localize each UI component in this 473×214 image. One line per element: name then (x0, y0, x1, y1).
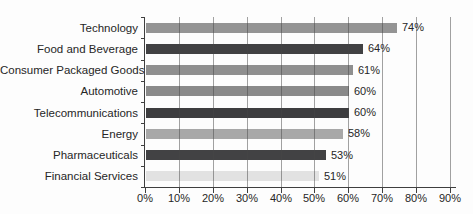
bar-value-label: 60% (354, 106, 376, 119)
gridline (247, 17, 248, 187)
category-label: Pharmaceuticals (0, 148, 138, 162)
bar (146, 65, 353, 75)
x-axis (141, 187, 456, 188)
bar-chart: 0%10%20%30%40%50%60%70%80%90%Technology7… (0, 0, 473, 214)
category-label: Consumer Packaged Goods (0, 63, 138, 77)
bar (146, 150, 326, 160)
x-axis-tick (416, 188, 417, 193)
bar-value-label: 64% (368, 42, 390, 55)
gridline (416, 17, 417, 187)
y-axis-tick (141, 145, 145, 146)
gridline (314, 17, 315, 187)
x-axis-tick (348, 188, 349, 193)
gridline (213, 17, 214, 187)
bar-value-label: 74% (402, 21, 424, 34)
bar-value-label: 53% (331, 149, 353, 162)
x-axis-tick (145, 188, 146, 193)
y-axis-tick (141, 81, 145, 82)
category-label: Food and Beverage (0, 42, 138, 56)
category-label: Financial Services (0, 169, 138, 183)
x-axis-tick (382, 188, 383, 193)
category-label: Automotive (0, 84, 138, 98)
bar-value-label: 51% (324, 170, 346, 183)
bar (146, 171, 319, 181)
category-label: Technology (0, 21, 138, 35)
gridline (281, 17, 282, 187)
x-axis-tick (179, 188, 180, 193)
y-axis-tick (141, 17, 145, 18)
gridline (179, 17, 180, 187)
category-label: Energy (0, 127, 138, 141)
bar-value-label: 60% (354, 85, 376, 98)
x-axis-tick (450, 188, 451, 193)
x-axis-tick (213, 188, 214, 193)
x-axis-tick (247, 188, 248, 193)
bar-value-label: 61% (358, 64, 380, 77)
y-axis-tick (141, 38, 145, 39)
x-tick-label: 90% (430, 192, 470, 205)
gridline (450, 17, 451, 187)
y-axis-tick (141, 60, 145, 61)
y-axis-tick (141, 123, 145, 124)
x-axis-tick (314, 188, 315, 193)
x-axis-tick (281, 188, 282, 193)
category-label: Telecommunications (0, 106, 138, 120)
y-axis-tick (141, 102, 145, 103)
bar-value-label: 58% (348, 127, 370, 140)
y-axis-tick (141, 166, 145, 167)
bar (146, 23, 397, 33)
